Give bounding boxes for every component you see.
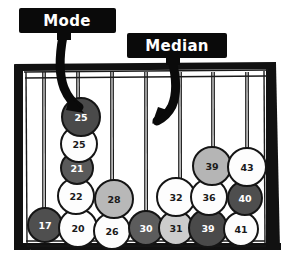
ball-30: 30 (129, 211, 163, 245)
hanging-string (43, 72, 46, 222)
figure-canvas: 1720222125252628303132393639414043 ModeM… (0, 0, 292, 265)
callout-mode: Mode (19, 8, 116, 40)
callout-label: Mode (43, 12, 90, 30)
callout-tail (57, 33, 71, 40)
hanging-string (145, 72, 148, 222)
ball-circle (129, 211, 163, 245)
ball-circle (95, 180, 133, 218)
ball-39: 39 (193, 147, 231, 185)
ball-circle (224, 212, 258, 246)
hanging-string (111, 72, 114, 192)
ball-32: 32 (157, 178, 195, 216)
callout-median: Median (127, 33, 227, 65)
rack-inner-left-rail (26, 72, 27, 243)
ball-circle (157, 178, 195, 216)
ball-17: 17 (28, 208, 62, 242)
ball-41: 41 (224, 212, 258, 246)
ball-28: 28 (95, 180, 133, 218)
ball-43: 43 (228, 148, 266, 186)
ball-circle (28, 208, 62, 242)
callouts-layer: ModeMedian (19, 8, 227, 65)
ball-circle (193, 147, 231, 185)
callout-label: Median (145, 37, 209, 55)
ball-circle (228, 148, 266, 186)
rack-right-post (266, 63, 280, 250)
callout-tail (166, 58, 180, 65)
dotplot-scene: 1720222125252628303132393639414043 ModeM… (0, 0, 292, 265)
